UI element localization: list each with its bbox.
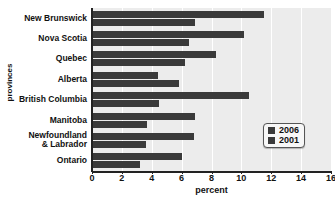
x-tick-mark <box>301 171 302 174</box>
bar-2006 <box>92 51 216 58</box>
bar-2001 <box>92 59 185 66</box>
category-label: Alberta <box>12 69 90 89</box>
bar-2001 <box>92 161 140 168</box>
x-tick-mark <box>122 171 123 174</box>
x-tick-mark <box>92 171 93 174</box>
x-axis-title: percent <box>92 185 331 195</box>
bar-group <box>92 49 331 69</box>
bar-2001 <box>92 100 159 107</box>
x-tick-mark <box>241 171 242 174</box>
x-tick-label: 8 <box>209 173 214 183</box>
bar-2001 <box>92 80 179 87</box>
x-tick-label: 0 <box>89 173 94 183</box>
bar-2001 <box>92 141 146 148</box>
legend-label: 2006 <box>279 126 299 135</box>
bar-group <box>92 69 331 89</box>
x-tick-label: 12 <box>266 173 276 183</box>
legend-item[interactable]: 2006 <box>268 126 299 135</box>
gridline <box>331 8 332 171</box>
x-tick-mark <box>152 171 153 174</box>
bar-2006 <box>92 11 264 18</box>
bar-group <box>92 28 331 48</box>
legend-item[interactable]: 2001 <box>268 136 299 145</box>
category-label: British Columbia <box>12 90 90 110</box>
category-label: Ontario <box>12 151 90 171</box>
legend-swatch-icon <box>268 127 275 134</box>
x-tick-mark <box>212 171 213 174</box>
bar-2001 <box>92 19 195 26</box>
x-tick-label: 2 <box>119 173 124 183</box>
category-label: Newfoundland& Labrador <box>12 130 90 150</box>
bar-group <box>92 90 331 110</box>
bar-2001 <box>92 39 189 46</box>
bar-2001 <box>92 121 147 128</box>
category-label: New Brunswick <box>12 8 90 28</box>
x-tick-mark <box>331 171 332 174</box>
chart-legend: 20062001 <box>263 123 305 148</box>
category-label: Quebec <box>12 49 90 69</box>
bar-2006 <box>92 31 244 38</box>
x-tick-label: 10 <box>236 173 246 183</box>
y-axis-line <box>91 8 93 172</box>
x-tick-label: 6 <box>179 173 184 183</box>
x-tick-label: 14 <box>296 173 306 183</box>
chart-figure: provinces New BrunswickNova ScotiaQuebec… <box>0 0 335 199</box>
bar-2006 <box>92 153 182 160</box>
category-label: Nova Scotia <box>12 28 90 48</box>
legend-swatch-icon <box>268 137 275 144</box>
x-tick-mark <box>182 171 183 174</box>
legend-label: 2001 <box>279 136 299 145</box>
x-tick-label: 16 <box>326 173 335 183</box>
bar-2006 <box>92 133 194 140</box>
bar-2006 <box>92 92 249 99</box>
bar-2006 <box>92 113 195 120</box>
category-axis: New BrunswickNova ScotiaQuebecAlbertaBri… <box>12 8 90 171</box>
x-axis-tick-labels: 0246810121416 <box>0 173 335 185</box>
x-tick-mark <box>271 171 272 174</box>
bar-group <box>92 8 331 28</box>
bar-2006 <box>92 72 158 79</box>
category-label: Manitoba <box>12 110 90 130</box>
bar-group <box>92 151 331 171</box>
x-tick-label: 4 <box>149 173 154 183</box>
